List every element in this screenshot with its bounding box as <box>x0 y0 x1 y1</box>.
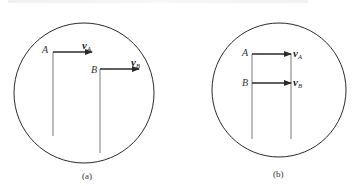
panel-a: A vA B vB (a) <box>14 23 154 181</box>
point-label-B-a: B <box>91 64 97 75</box>
velocity-label-vB-a: vB <box>131 56 140 69</box>
velocity-label-vA-b: vA <box>293 47 302 60</box>
velocity-label-vA-a: vA <box>82 39 91 52</box>
point-label-A-b: A <box>241 47 249 58</box>
point-label-A-a: A <box>41 44 49 55</box>
velocity-label-vB-b: vB <box>293 76 302 89</box>
caption-a: (a) <box>82 171 92 181</box>
point-label-B-b: B <box>242 77 248 88</box>
caption-b: (b) <box>273 169 284 179</box>
velocity-diagram: A vA B vB (a) A vA B vB (b) <box>0 0 357 186</box>
panel-b: A vA B vB (b) <box>212 23 346 179</box>
boundary-circle-b <box>212 23 346 157</box>
